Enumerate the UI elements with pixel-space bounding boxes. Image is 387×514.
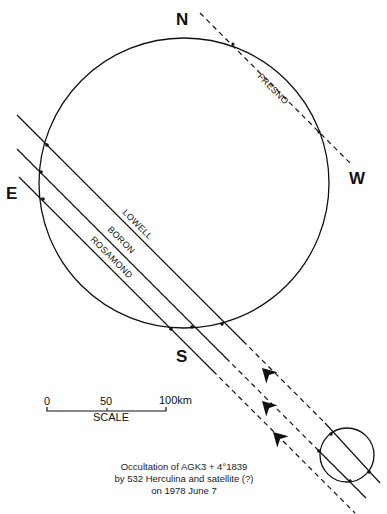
lowell-chord-extension	[243, 341, 325, 423]
satellite-contact-point	[329, 432, 333, 436]
caption-line-1: Occultation of AGK3 + 4°1839	[121, 461, 248, 472]
satellite-contact-point	[367, 470, 371, 474]
south-label: S	[176, 347, 187, 366]
motion-arrow-icon	[256, 362, 277, 383]
satellite-contact-point	[348, 479, 352, 483]
caption-line-3: on 1978 June 7	[151, 485, 217, 496]
satellite-contact-point	[317, 449, 321, 453]
fresno-label: FRESNO	[256, 71, 291, 106]
rosamond-contact-point	[41, 197, 45, 201]
rosamond-chord	[19, 177, 213, 371]
primary-body-outline	[39, 38, 329, 328]
scale-tick-50: 50	[100, 395, 112, 407]
satellite-chord	[325, 423, 380, 483]
west-label: W	[349, 169, 366, 188]
motion-arrow-icon	[267, 426, 288, 447]
occultation-diagram: N S E W LOWELL BORON ROSAMOND FRESNO 0 5…	[0, 0, 387, 514]
boron-contact-point	[190, 325, 194, 329]
fresno-contact-point	[317, 130, 320, 133]
boron-contact-point	[39, 170, 43, 174]
rosamond-chord-extension	[213, 371, 355, 513]
satellite-chord	[318, 450, 366, 498]
lowell-chord	[17, 115, 243, 341]
caption-line-2: by 532 Herculina and satellite (?)	[115, 473, 254, 484]
east-label: E	[6, 184, 17, 203]
scale-tick-100km: 100km	[159, 394, 192, 406]
rosamond-contact-point	[169, 327, 173, 331]
lowell-contact-point	[45, 143, 49, 147]
satellite-body-outline	[320, 428, 374, 482]
boron-chord	[17, 149, 226, 358]
scale-label: SCALE	[93, 411, 129, 423]
fresno-contact-point	[231, 42, 234, 45]
scale-tick-0: 0	[44, 395, 50, 407]
lowell-contact-point	[220, 322, 224, 326]
north-label: N	[176, 10, 188, 29]
